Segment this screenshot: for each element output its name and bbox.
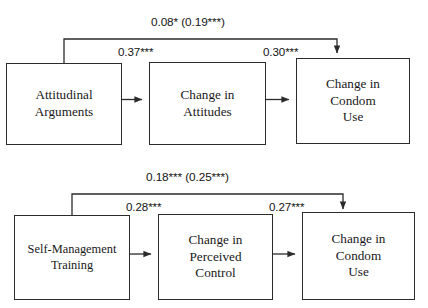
coef-b-path-bottom: 0.27*** [269,200,304,213]
node-attitudinal-arguments[interactable]: Attitudinal Arguments [6,63,122,145]
node-self-management-training[interactable]: Self-Management Training [14,215,130,300]
coef-b-path-top: 0.30*** [263,45,298,58]
node-change-in-condom-use[interactable]: Change in Condom Use [296,58,410,144]
node-self-management-training-label: Self-Management Training [25,242,120,274]
node-change-in-attitudes[interactable]: Change in Attitudes [149,62,266,145]
coef-a-path-top: 0.37*** [118,45,153,58]
node-change-in-condom-use-2[interactable]: Change in Condom Use [302,212,415,300]
node-attitudinal-arguments-label: Attitudinal Arguments [32,87,96,121]
coef-direct-effect-top: 0.08* (0.19***) [151,15,225,29]
node-change-in-condom-use-2-label: Change in Condom Use [329,231,389,282]
coef-direct-effect-bottom: 0.18*** (0.25***) [146,170,229,184]
coef-a-path-bottom: 0.28*** [126,200,161,213]
node-change-in-perceived-control[interactable]: Change in Perceived Control [158,214,273,300]
node-change-in-attitudes-label: Change in Attitudes [178,87,238,121]
node-change-in-condom-use-label: Change in Condom Use [323,76,383,127]
node-change-in-perceived-control-label: Change in Perceived Control [186,232,246,283]
path-diagram: Attitudinal Arguments Change in Attitude… [0,0,428,308]
